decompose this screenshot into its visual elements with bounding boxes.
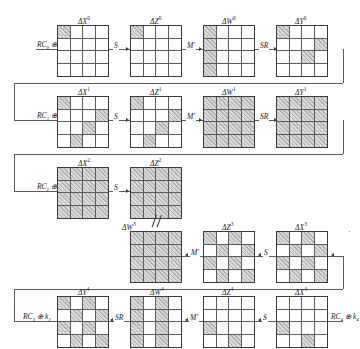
- delta-x-3-label: ΔX3: [295, 221, 307, 232]
- state-cell: [156, 168, 169, 181]
- state-cell: [131, 310, 144, 323]
- state-cell: [144, 122, 157, 135]
- state-cell: [204, 257, 217, 270]
- state-cell: [156, 110, 169, 123]
- state-cell: [217, 110, 230, 123]
- state-cell: [290, 310, 303, 323]
- state-cell: [144, 135, 157, 148]
- arrow-right: [126, 189, 129, 193]
- state-cell: [96, 39, 109, 52]
- state-cell: [302, 297, 315, 310]
- state-cell: [217, 51, 230, 64]
- state-cell: [131, 168, 144, 181]
- state-cell: [58, 110, 71, 123]
- state-cell: [83, 206, 96, 219]
- state-cell: [169, 310, 182, 323]
- state-cell: [131, 64, 144, 77]
- state-cell: [156, 206, 169, 219]
- state-cell: [277, 297, 290, 310]
- state-cell: [131, 322, 144, 335]
- state-cell: [83, 26, 96, 39]
- state-cell: [58, 168, 71, 181]
- state-cell: [131, 232, 144, 245]
- state-cell: [96, 335, 109, 348]
- state-cell: [169, 181, 182, 194]
- state-cell: [242, 310, 255, 323]
- state-cell: [242, 270, 255, 283]
- state-cell: [71, 110, 84, 123]
- state-cell: [169, 51, 182, 64]
- delta-x-0-grid: [57, 25, 109, 77]
- state-cell: [315, 122, 328, 135]
- state-cell: [290, 322, 303, 335]
- state-cell: [169, 26, 182, 39]
- state-cell: [144, 232, 157, 245]
- state-cell: [315, 26, 328, 39]
- state-cell: [277, 322, 290, 335]
- state-cell: [169, 168, 182, 181]
- state-cell: [315, 335, 328, 348]
- state-cell: [204, 26, 217, 39]
- arrow-left: [185, 318, 188, 322]
- state-cell: [169, 232, 182, 245]
- state-cell: [242, 51, 255, 64]
- delta-y-4-grid: [57, 296, 109, 348]
- sbox-op-2-label: S: [113, 183, 119, 192]
- state-cell: [58, 39, 71, 52]
- delta-z-1-label: ΔZ1: [150, 86, 162, 97]
- state-cell: [83, 51, 96, 64]
- state-cell: [302, 39, 315, 52]
- state-cell: [242, 297, 255, 310]
- state-cell: [302, 64, 315, 77]
- arrow-left: [258, 318, 261, 322]
- delta-z-2-grid: [130, 167, 182, 219]
- delta-z-3-grid: [203, 231, 255, 283]
- state-cell: [58, 193, 71, 206]
- state-cell: [204, 245, 217, 258]
- state-cell: [156, 135, 169, 148]
- state-cell: [290, 297, 303, 310]
- state-cell: [290, 335, 303, 348]
- sbox-op-0-label: S: [113, 41, 119, 50]
- delta-w-4-label: ΔW4: [150, 286, 164, 297]
- state-cell: [229, 39, 242, 52]
- state-cell: [315, 257, 328, 270]
- wrap-3-bottom: [14, 289, 343, 290]
- state-cell: [290, 64, 303, 77]
- state-cell: [204, 270, 217, 283]
- arrow-left: [185, 253, 188, 257]
- state-cell: [242, 39, 255, 52]
- state-cell: [169, 39, 182, 52]
- state-cell: [131, 181, 144, 194]
- arrow-right: [126, 118, 129, 122]
- state-cell: [169, 322, 182, 335]
- state-cell: [229, 97, 242, 110]
- state-cell: [169, 135, 182, 148]
- state-cell: [156, 193, 169, 206]
- state-cell: [131, 270, 144, 283]
- state-cell: [58, 335, 71, 348]
- mixcolumns-op-4-label: M′: [189, 313, 199, 322]
- state-cell: [315, 310, 328, 323]
- state-cell: [58, 310, 71, 323]
- state-cell: [83, 297, 96, 310]
- state-cell: [302, 270, 315, 283]
- delta-z-0-label: ΔZ0: [150, 15, 162, 26]
- state-cell: [315, 270, 328, 283]
- state-cell: [229, 322, 242, 335]
- state-cell: [71, 168, 84, 181]
- delta-y-0-label: ΔY0: [295, 15, 307, 26]
- state-cell: [302, 51, 315, 64]
- state-cell: [131, 335, 144, 348]
- state-cell: [315, 39, 328, 52]
- state-cell: [144, 270, 157, 283]
- state-cell: [204, 51, 217, 64]
- state-cell: [242, 232, 255, 245]
- state-cell: [144, 193, 157, 206]
- state-cell: [131, 97, 144, 110]
- state-cell: [302, 26, 315, 39]
- delta-x-1-grid: [57, 96, 109, 148]
- state-cell: [242, 245, 255, 258]
- state-cell: [156, 181, 169, 194]
- state-cell: [156, 270, 169, 283]
